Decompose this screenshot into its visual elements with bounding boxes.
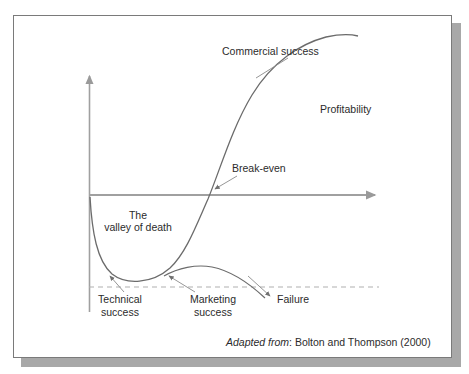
source-credit-italic: Adapted from <box>226 336 289 348</box>
main-venture-curve <box>90 35 358 282</box>
label-marketing-success-line2: success <box>183 306 243 319</box>
figure-root: Commercial success Profitability Break-e… <box>0 0 469 374</box>
callout-line-marketing-success <box>169 276 195 292</box>
label-technical-success-line1: Technical <box>92 293 148 306</box>
label-commercial-success: Commercial success <box>222 45 319 58</box>
callout-line-technical-success <box>110 276 124 292</box>
label-technical-success-line2: success <box>92 306 148 319</box>
source-credit-rest: : Bolton and Thompson (2000) <box>289 336 431 348</box>
label-valley-of-death-line2: valley of death <box>103 221 173 234</box>
label-failure: Failure <box>277 293 309 306</box>
label-break-even: Break-even <box>232 162 286 175</box>
source-credit: Adapted from: Bolton and Thompson (2000) <box>226 336 431 348</box>
label-valley-of-death-line1: The <box>103 209 173 222</box>
label-profitability: Profitability <box>320 103 371 116</box>
callout-line-commercial-success <box>256 58 288 78</box>
label-marketing-success-line1: Marketing <box>183 293 243 306</box>
callout-line-break-even <box>215 176 237 189</box>
